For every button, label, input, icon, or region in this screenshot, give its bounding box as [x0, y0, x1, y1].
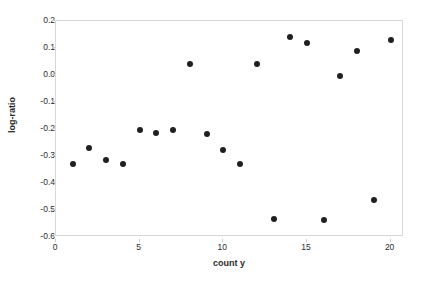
data-point — [271, 216, 277, 222]
data-point — [371, 197, 377, 203]
data-point — [204, 131, 210, 137]
data-point — [70, 161, 76, 167]
data-point — [237, 161, 243, 167]
data-point — [287, 34, 293, 40]
y-axis-label: log-ratio — [7, 85, 17, 145]
x-axis-tick-label: 5 — [119, 243, 159, 252]
y-axis-tick-label: -0.5 — [25, 205, 55, 214]
data-points-layer — [56, 21, 402, 235]
plot-area — [55, 20, 403, 236]
x-axis-label: count y — [55, 258, 403, 268]
x-axis-tick-mark — [222, 239, 223, 242]
y-axis-tick-labels: 0.20.10.0-0.1-0.2-0.3-0.4-0.5-0.6 — [20, 0, 55, 282]
y-axis-tick-label: 0.1 — [25, 43, 55, 52]
x-axis-tick-labels: 05101520 — [0, 243, 425, 257]
data-point — [86, 145, 92, 151]
scatter-plot-figure: log-ratio 0.20.10.0-0.1-0.2-0.3-0.4-0.5-… — [0, 0, 425, 282]
x-axis-tick-mark — [55, 239, 56, 242]
data-point — [170, 127, 176, 133]
x-axis-tick-mark — [390, 239, 391, 242]
data-point — [254, 61, 260, 67]
x-axis-tick-mark — [139, 239, 140, 242]
y-axis-tick-mark — [52, 236, 55, 237]
data-point — [388, 37, 394, 43]
data-point — [137, 127, 143, 133]
data-point — [321, 217, 327, 223]
data-point — [220, 147, 226, 153]
y-axis-tick-label: 0.2 — [25, 16, 55, 25]
y-axis-tick-label: -0.3 — [25, 151, 55, 160]
x-axis-tick-label: 15 — [286, 243, 326, 252]
x-axis-tick-label: 10 — [202, 243, 242, 252]
data-point — [103, 157, 109, 163]
y-axis-tick-label: 0.0 — [25, 70, 55, 79]
x-axis-tick-mark — [306, 239, 307, 242]
data-point — [187, 61, 193, 67]
data-point — [153, 130, 159, 136]
y-axis-tick-label: -0.2 — [25, 124, 55, 133]
y-axis-tick-label: -0.4 — [25, 178, 55, 187]
y-axis-tick-label: -0.1 — [25, 97, 55, 106]
y-axis-tick-label: -0.6 — [25, 232, 55, 241]
data-point — [337, 73, 343, 79]
data-point — [304, 40, 310, 46]
x-axis-tick-label: 20 — [370, 243, 410, 252]
x-axis-tick-label: 0 — [35, 243, 75, 252]
data-point — [354, 48, 360, 54]
data-point — [120, 161, 126, 167]
